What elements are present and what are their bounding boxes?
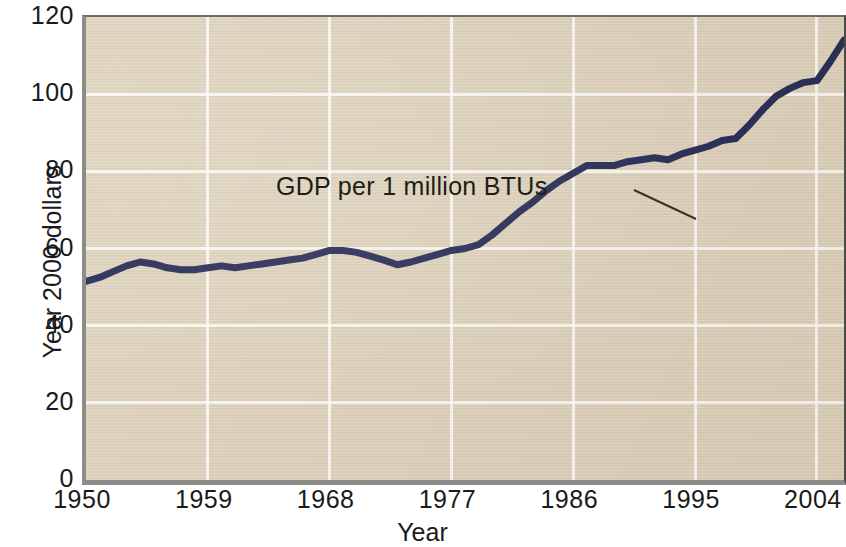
y-axis-tick-label: 100 [2,78,74,107]
y-axis-tick-label: 120 [2,1,74,30]
x-axis-tick-label: 1950 [53,485,111,514]
plot-area [82,15,846,485]
x-axis-tick-label: 1959 [175,485,233,514]
series-annotation-label: GDP per 1 million BTUs [276,172,548,201]
annotation-leader-line [632,186,702,226]
series-line-gdp-per-1-million-btus [86,40,844,281]
x-axis-tick-label: 1968 [297,485,355,514]
data-series-layer [86,17,844,480]
x-axis-tick-label: 1977 [419,485,477,514]
x-axis-tick-label: 1995 [662,485,720,514]
x-axis-tick-label: 2004 [784,485,842,514]
x-axis-tick-label: 1986 [540,485,598,514]
y-axis-title: Year 2000 dollars [38,117,67,407]
x-axis-title: Year [0,518,845,547]
